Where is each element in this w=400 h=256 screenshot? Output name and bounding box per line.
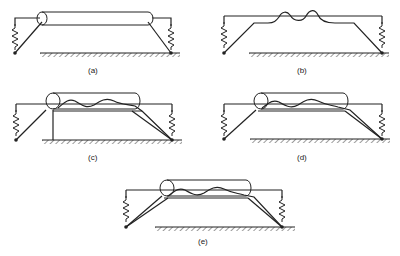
panel-e-label: (e)	[198, 237, 208, 246]
panel-b: (b)	[221, 11, 389, 75]
panel-d: (d)	[221, 93, 390, 162]
mechanism-figure: (a) (b) (c)	[0, 0, 400, 256]
panel-c-label: (c)	[88, 153, 98, 162]
panel-d-label: (d)	[297, 153, 307, 162]
panel-a: (a)	[12, 12, 180, 75]
panel-c: (c)	[13, 93, 182, 162]
panel-b-label: (b)	[297, 66, 307, 75]
panel-a-label: (a)	[88, 66, 98, 75]
panel-e: (e)	[123, 180, 295, 246]
